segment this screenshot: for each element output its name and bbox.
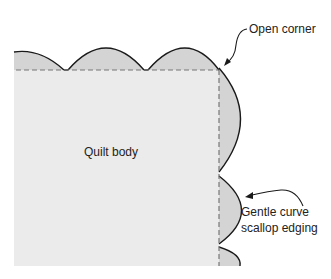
open-corner-arrowhead xyxy=(224,58,231,66)
scallop-label-line2: scallop edging xyxy=(241,221,318,235)
quilt-scallop-diagram: Quilt body Open corner Gentle curve scal… xyxy=(0,0,331,279)
open-corner-label: Open corner xyxy=(249,22,316,36)
scallop-label-line1: Gentle curve xyxy=(241,205,309,219)
scallop-arrowhead xyxy=(245,192,253,199)
scallop-arrow xyxy=(252,190,303,206)
quilt-body xyxy=(14,70,219,266)
open-corner-arrow xyxy=(226,29,247,63)
top-scallops xyxy=(14,48,219,70)
quilt-body-label: Quilt body xyxy=(84,145,138,159)
